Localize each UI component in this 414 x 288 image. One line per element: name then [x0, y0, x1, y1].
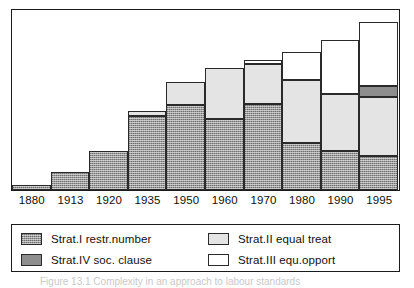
figure-root: 1880191319201935195019601970198019901995… — [0, 0, 414, 288]
legend-label-strat2: Strat.II equal treat — [238, 233, 331, 245]
bar-segment-1950-strat2 — [166, 82, 205, 106]
bar-segment-1970-strat2 — [244, 64, 283, 104]
bar-segment-1990-strat3 — [321, 40, 360, 93]
legend-swatch-strat1-icon — [21, 233, 42, 245]
bar-segment-1995-strat4 — [359, 86, 398, 97]
x-tick-1920: 1920 — [90, 194, 129, 206]
x-tick-1970: 1970 — [244, 194, 283, 206]
chart-legend: Strat.I restr.number Strat.IV soc. claus… — [11, 224, 400, 272]
bar-segment-1970-strat1 — [244, 104, 283, 190]
legend-label-strat1: Strat.I restr.number — [51, 233, 151, 245]
bar-segment-1995-strat3 — [359, 22, 398, 86]
bar-segment-1960-strat1 — [205, 119, 244, 190]
bar-segment-1880-strat1 — [12, 185, 51, 190]
x-tick-1980: 1980 — [283, 194, 322, 206]
bar-segment-1920-strat1 — [89, 151, 128, 190]
x-tick-1913: 1913 — [51, 194, 90, 206]
legend-item-strat2: Strat.II equal treat — [208, 228, 398, 249]
chart-plot-area — [11, 9, 400, 191]
x-tick-1995: 1995 — [360, 194, 399, 206]
x-tick-1950: 1950 — [167, 194, 206, 206]
bar-segment-1970-strat3 — [244, 60, 283, 64]
bar-segment-1980-strat2 — [282, 80, 321, 143]
bar-segment-1995-strat1 — [359, 156, 398, 190]
legend-swatch-strat3-icon — [208, 254, 229, 266]
x-tick-1990: 1990 — [321, 194, 360, 206]
bar-segment-1960-strat2 — [205, 68, 244, 119]
legend-item-strat4: Strat.IV soc. clause — [21, 249, 211, 270]
bar-segment-1950-strat1 — [166, 105, 205, 190]
legend-item-strat3: Strat.III equ.opport — [208, 249, 398, 270]
legend-swatch-strat2-icon — [208, 233, 229, 245]
bar-segment-1980-strat3 — [282, 52, 321, 80]
legend-swatch-strat4-icon — [21, 254, 42, 266]
x-tick-1880: 1880 — [13, 194, 52, 206]
legend-label-strat3: Strat.III equ.opport — [238, 254, 335, 266]
bar-segment-1935-strat2 — [128, 111, 167, 116]
bar-segment-1995-strat2 — [359, 97, 398, 156]
legend-item-strat1: Strat.I restr.number — [21, 228, 211, 249]
bar-segment-1990-strat1 — [321, 151, 360, 190]
x-tick-1935: 1935 — [128, 194, 167, 206]
bar-segment-1980-strat1 — [282, 143, 321, 190]
bar-segment-1935-strat1 — [128, 116, 167, 190]
bar-segment-1913-strat1 — [51, 172, 90, 190]
bars-layer — [12, 10, 399, 190]
bar-segment-1990-strat2 — [321, 94, 360, 151]
figure-caption: Figure 13.1 Complexity in an approach to… — [40, 276, 400, 287]
legend-label-strat4: Strat.IV soc. clause — [51, 254, 152, 266]
x-axis-labels: 1880191319201935195019601970198019901995 — [11, 194, 400, 212]
x-tick-1960: 1960 — [206, 194, 245, 206]
